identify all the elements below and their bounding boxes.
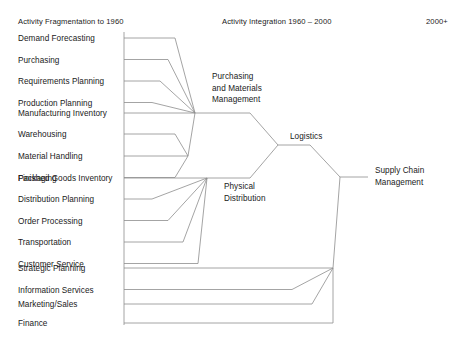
connector-path [124, 60, 195, 114]
activity-label: Warehousing [18, 130, 67, 139]
activity-label: Information Services [18, 285, 94, 294]
connector-path [207, 145, 278, 178]
connector-path [124, 178, 207, 242]
activity-label: Demand Forecasting [18, 34, 95, 43]
connector-path [124, 81, 195, 113]
activity-label: Production Planning [18, 98, 92, 107]
activity-label: Purchasing [18, 55, 59, 64]
connector-path [333, 177, 340, 268]
activity-label: Finished Goods Inventory [18, 174, 113, 183]
connector-path [124, 134, 188, 156]
connector-path [124, 178, 207, 199]
connector-path [124, 268, 333, 290]
activity-label: Material Handling [18, 152, 83, 161]
connector-path [195, 113, 278, 145]
connector-path [124, 103, 195, 114]
node-label-pd: Physical Distribution [224, 181, 266, 204]
node-label-logistics: Logistics [290, 131, 322, 143]
activity-label: Finance [18, 319, 47, 328]
activity-label: Requirements Planning [18, 77, 104, 86]
connector-path [124, 38, 195, 113]
connector-path [278, 145, 340, 177]
activity-label: Manufacturing Inventory [18, 109, 107, 118]
node-label-scm: Supply Chain Management [375, 165, 424, 188]
activity-label: Distribution Planning [18, 195, 94, 204]
activity-label: Strategic Planning [18, 264, 85, 273]
diagram-canvas: Activity Fragmentation to 1960 Activity … [0, 0, 463, 342]
node-label-pmm: Purchasing and Materials Management [212, 71, 262, 106]
activity-label: Order Processing [18, 216, 83, 225]
connector-path [124, 268, 333, 323]
connector-path [124, 268, 333, 304]
activity-label: Transportation [18, 238, 71, 247]
connector-path [124, 156, 188, 178]
connector-path [188, 113, 195, 156]
activity-label: Marketing/Sales [18, 300, 77, 309]
